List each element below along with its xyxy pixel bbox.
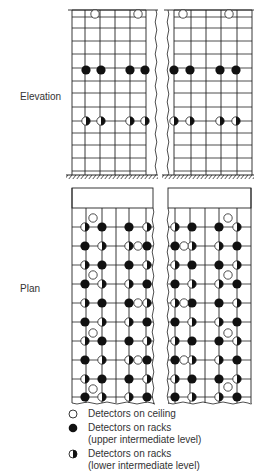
filled-detector-icon	[124, 298, 133, 307]
half-filled-detector-icon	[188, 318, 196, 326]
filled-detector-icon	[80, 241, 89, 250]
half-filled-detector-icon	[171, 299, 179, 307]
detector-fill	[237, 375, 241, 383]
filled-detector-icon	[97, 336, 106, 345]
filled-detector-icon	[142, 392, 151, 401]
half-filled-detector-icon	[215, 393, 223, 401]
elevation-rack-right	[162, 10, 254, 179]
detector-fill	[147, 375, 151, 383]
half-filled-detector-icon	[141, 117, 149, 125]
half-filled-detector-icon	[81, 337, 89, 345]
open-detector-icon	[180, 356, 188, 364]
elevation-view	[66, 10, 254, 179]
open-detector-icon	[89, 214, 97, 222]
detector-fill	[175, 375, 179, 383]
detector-fill	[219, 242, 223, 250]
legend-item-ceiling: Detectors on ceiling	[66, 408, 262, 420]
filled-detector-icon	[142, 279, 151, 288]
half-filled-detector-icon	[82, 117, 90, 125]
filled-detector-icon	[231, 65, 240, 74]
half-filled-detector-icon	[126, 117, 134, 125]
detector-fill	[102, 393, 106, 401]
half-filled-detector-icon	[143, 261, 151, 269]
filled-detector-icon	[214, 222, 223, 231]
detector-fill	[219, 356, 223, 364]
half-filled-detector-icon	[125, 280, 133, 288]
detector-fill	[101, 117, 105, 125]
half-filled-circle-icon	[68, 449, 78, 459]
half-filled-detector-icon	[215, 280, 223, 288]
open-detector-icon	[225, 10, 233, 18]
plan-rack-left	[72, 188, 155, 404]
filled-detector-icon	[124, 336, 133, 345]
detector-fill	[192, 280, 196, 288]
filled-detector-icon	[170, 279, 179, 288]
detector-fill	[147, 223, 151, 231]
filled-circle-icon	[68, 423, 78, 433]
detector-fill	[175, 299, 179, 307]
filled-detector-icon	[232, 392, 241, 401]
detector-fill	[219, 318, 223, 326]
half-filled-detector-icon	[98, 280, 106, 288]
filled-detector-icon	[187, 298, 196, 307]
detector-fill	[219, 393, 223, 401]
detector-fill	[175, 223, 179, 231]
half-filled-detector-icon	[143, 299, 151, 307]
half-filled-detector-icon	[188, 393, 196, 401]
half-filled-detector-icon	[98, 242, 106, 250]
filled-detector-icon	[97, 260, 106, 269]
legend-label: Detectors on racks	[88, 448, 262, 460]
floor-hatch	[162, 175, 254, 179]
detector-fill	[85, 261, 89, 269]
open-detector-icon	[224, 214, 232, 222]
filled-detector-icon	[232, 355, 241, 364]
plan-view	[72, 188, 252, 404]
open-circle-icon	[68, 409, 78, 419]
half-filled-detector-icon	[215, 318, 223, 326]
detector-fill	[145, 117, 149, 125]
half-filled-detector-icon	[81, 299, 89, 307]
half-filled-detector-icon	[81, 261, 89, 269]
half-filled-detector-icon	[215, 356, 223, 364]
detector-fill	[192, 318, 196, 326]
filled-detector-icon	[170, 355, 179, 364]
half-filled-detector-icon	[171, 375, 179, 383]
open-detector-icon	[134, 299, 142, 307]
half-filled-detector-icon	[125, 356, 133, 364]
break-line	[152, 208, 154, 403]
plan-rack-right	[167, 188, 251, 404]
detector-fill	[85, 337, 89, 345]
detector-fill	[129, 356, 133, 364]
break-line	[167, 10, 169, 175]
detector-fill	[175, 261, 179, 269]
filled-detector-icon	[80, 392, 89, 401]
half-filled-detector-icon	[98, 393, 106, 401]
detector-fill	[192, 242, 196, 250]
half-filled-detector-icon	[233, 261, 241, 269]
legend-item-upper-racks: Detectors on racks (upper intermediate l…	[66, 422, 262, 446]
detector-fill	[236, 117, 240, 125]
aisle-box	[72, 188, 153, 208]
open-detector-icon	[180, 242, 188, 250]
detector-fill	[237, 299, 241, 307]
filled-detector-icon	[232, 317, 241, 326]
break-line	[155, 10, 157, 175]
plan-label: Plan	[20, 283, 40, 294]
detector-fill	[192, 356, 196, 364]
half-filled-detector-icon	[125, 242, 133, 250]
open-detector-icon	[134, 356, 142, 364]
bottom-break-line	[168, 402, 252, 404]
open-detector-icon	[89, 329, 97, 337]
filled-detector-icon	[125, 65, 134, 74]
filled-detector-icon	[97, 374, 106, 383]
open-detector-icon	[179, 10, 187, 18]
filled-detector-icon	[124, 222, 133, 231]
filled-detector-icon	[124, 260, 133, 269]
detector-fill	[219, 280, 223, 288]
half-filled-detector-icon	[186, 117, 194, 125]
detector-fill	[86, 117, 90, 125]
half-filled-detector-icon	[188, 242, 196, 250]
filled-detector-icon	[187, 336, 196, 345]
filled-detector-icon	[97, 298, 106, 307]
half-filled-detector-icon	[188, 356, 196, 364]
